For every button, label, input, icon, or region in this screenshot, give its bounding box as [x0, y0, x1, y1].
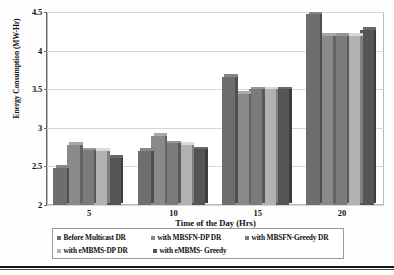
legend-item-label: with eMBMS- Greedy — [160, 246, 227, 255]
legend-swatch-icon — [57, 236, 61, 240]
legend-item[interactable]: with MBSFN-Greedy DR — [245, 233, 339, 242]
y-axis-tick-label: 4 — [0, 46, 42, 56]
bar-side-3d — [320, 12, 323, 203]
legend-item[interactable]: with eMBMS- Greedy — [153, 246, 249, 255]
legend-row-2: with eMBMS-DP DRwith eMBMS- Greedy — [57, 244, 339, 257]
legend-item[interactable]: with eMBMS-DP DR — [57, 246, 153, 255]
y-axis-tick-mark — [44, 51, 47, 52]
chart-figure: 22.533.544.5 Energy Consumption (MW-Hr) … — [0, 0, 394, 275]
bar — [53, 168, 67, 205]
chart-legend: Before Multicast DRwith MBSFN-DP DRwith … — [52, 228, 344, 259]
y-axis-tick-label: 4.5 — [0, 7, 42, 17]
bar-face — [306, 14, 320, 205]
bar-side-3d — [94, 148, 97, 203]
bar-side-3d — [165, 133, 168, 202]
bar-side-3d — [205, 147, 208, 203]
bar-side-3d — [333, 33, 336, 202]
bar — [306, 14, 320, 205]
legend-item-label: with eMBMS-DP DR — [64, 246, 128, 255]
legend-row-1: Before Multicast DRwith MBSFN-DP DRwith … — [57, 231, 339, 244]
bar-side-3d — [67, 165, 70, 202]
bar-side-3d — [347, 33, 350, 202]
y-axis-tick-label: 2 — [0, 200, 42, 210]
bar-side-3d — [249, 91, 252, 202]
y-axis-tick-mark — [44, 166, 47, 167]
bar-face — [53, 168, 67, 205]
y-axis-tick-mark — [44, 128, 47, 129]
bar-face — [222, 77, 236, 205]
legend-item-label: Before Multicast DR — [64, 233, 126, 242]
bar-side-3d — [80, 142, 83, 202]
legend-swatch-icon — [57, 249, 61, 253]
x-axis-tick-label: 20 — [322, 208, 362, 218]
legend-item-label: with MBSFN-Greedy DR — [252, 233, 329, 242]
legend-item-label: with MBSFN-DP DR — [158, 233, 222, 242]
legend-swatch-icon — [153, 249, 157, 253]
x-axis-tick-label: 15 — [238, 208, 278, 218]
page-divider-rule-thin — [0, 269, 394, 270]
x-axis-tick-label: 10 — [153, 208, 193, 218]
bar-side-3d — [107, 148, 110, 202]
y-axis-tick-label: 2.5 — [0, 161, 42, 171]
bar-side-3d — [360, 33, 363, 202]
bar-side-3d — [235, 74, 238, 202]
x-axis-tick-label: 5 — [69, 208, 109, 218]
legend-swatch-icon — [151, 236, 155, 240]
bar-side-3d — [374, 27, 377, 202]
y-axis-tick-label: 3.5 — [0, 84, 42, 94]
bar-side-3d — [262, 87, 265, 203]
bar-side-3d — [276, 87, 279, 203]
page-divider-rule — [0, 266, 394, 268]
bar — [222, 77, 236, 205]
x-axis-title: Time of the Day (Hrs) — [47, 218, 384, 228]
y-axis-tick-mark — [44, 89, 47, 90]
bar-face — [138, 151, 152, 205]
y-axis-tick-mark — [44, 12, 47, 13]
legend-item[interactable]: with MBSFN-DP DR — [151, 233, 245, 242]
legend-item[interactable]: Before Multicast DR — [57, 233, 151, 242]
bar-side-3d — [151, 148, 154, 202]
bar-side-3d — [178, 141, 181, 203]
bar-side-3d — [289, 87, 292, 203]
bar-side-3d — [121, 155, 124, 202]
y-axis-tick-label: 3 — [0, 123, 42, 133]
bar — [138, 151, 152, 205]
y-axis-title: Energy Consumption (MW-Hr) — [12, 0, 21, 139]
bar-side-3d — [192, 142, 195, 202]
legend-swatch-icon — [245, 236, 249, 240]
y-axis-tick-mark — [44, 205, 47, 206]
